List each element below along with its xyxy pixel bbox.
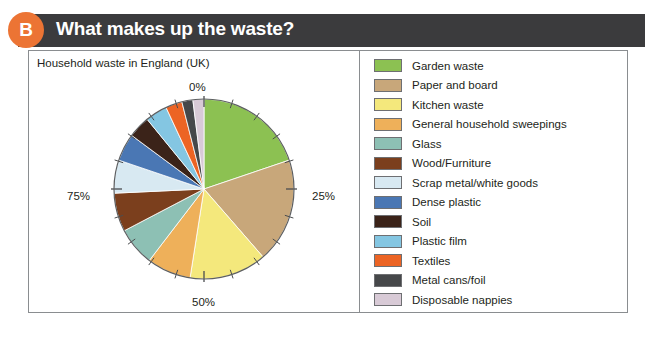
pie-slices [114,99,294,279]
legend-item: Wood/Furniture [374,154,624,174]
legend-label: Textiles [412,255,450,267]
legend-swatch [374,196,402,209]
section-badge: B [8,12,44,48]
legend-item: Dense plastic [374,193,624,213]
legend-label: Disposable nappies [412,294,512,306]
legend-label: Plastic film [412,235,467,247]
legend-item: Textiles [374,251,624,271]
legend-item: Metal cans/foil [374,271,624,291]
legend-swatch [374,98,402,111]
figure-panel: Household waste in England (UK) 0% 25% 5… [28,50,628,313]
legend-item: Disposable nappies [374,290,624,310]
legend-item: Glass [374,134,624,154]
legend-label: Dense plastic [412,196,481,208]
legend-label: Glass [412,138,441,150]
legend-item: Garden waste [374,56,624,76]
legend-swatch [374,235,402,248]
legend-label: Wood/Furniture [412,157,491,169]
legend-swatch [374,215,402,228]
legend-item: Scrap metal/white goods [374,173,624,193]
pie-svg [111,96,297,282]
legend-swatch [374,59,402,72]
legend-swatch [374,293,402,306]
legend-label: Soil [412,216,431,228]
tick-label-25: 25% [312,190,335,202]
legend-swatch [374,176,402,189]
legend-label: Metal cans/foil [412,274,486,286]
legend-swatch [374,274,402,287]
legend-item: General household sweepings [374,115,624,135]
tick-label-0: 0% [189,81,206,93]
pie-chart: 0% 25% 50% 75% [29,51,359,312]
legend-swatch [374,157,402,170]
legend-label: Garden waste [412,60,484,72]
legend-item: Plastic film [374,232,624,252]
legend-label: Kitchen waste [412,99,484,111]
legend-label: General household sweepings [412,118,567,130]
legend-item: Paper and board [374,76,624,96]
tick-label-50: 50% [192,296,215,308]
page-title: What makes up the waste? [56,18,294,40]
legend-swatch [374,79,402,92]
legend-swatch [374,137,402,150]
legend-item: Soil [374,212,624,232]
legend-label: Scrap metal/white goods [412,177,538,189]
legend-label: Paper and board [412,79,498,91]
legend-swatch [374,254,402,267]
chart-legend: Garden wastePaper and boardKitchen waste… [374,56,624,310]
legend-swatch [374,118,402,131]
legend-item: Kitchen waste [374,95,624,115]
tick-label-75: 75% [67,190,90,202]
panel-divider [359,51,360,312]
